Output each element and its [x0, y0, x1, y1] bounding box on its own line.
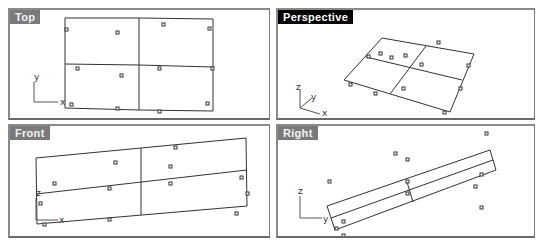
viewport-front[interactable]: Front z x [8, 124, 270, 238]
viewport-top[interactable]: Top y x [8, 8, 270, 120]
axis-label-y: y [323, 214, 329, 224]
axis-icon [300, 196, 322, 218]
control-points [39, 146, 249, 226]
axis-label-x: x [60, 97, 66, 107]
axis-label-z: z [36, 188, 41, 198]
axis-icon [300, 90, 320, 114]
front-view-canvas[interactable]: z x [10, 126, 270, 238]
top-view-canvas[interactable]: y x [10, 10, 270, 120]
axis-label-x: x [322, 108, 328, 118]
axis-label-y: y [311, 92, 317, 102]
perspective-view-canvas[interactable]: z y x [278, 10, 535, 120]
viewport-perspective[interactable]: Perspective z y x [276, 8, 535, 120]
right-view-canvas[interactable]: z y [278, 126, 535, 238]
axis-label-z: z [298, 186, 303, 196]
axis-icon [36, 198, 58, 220]
axis-icon [34, 82, 58, 102]
viewport-right[interactable]: Right z y [276, 124, 535, 238]
axis-label-y: y [34, 72, 40, 82]
axis-label-z: z [296, 82, 301, 92]
axis-label-x: x [59, 215, 65, 225]
